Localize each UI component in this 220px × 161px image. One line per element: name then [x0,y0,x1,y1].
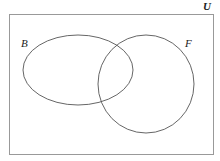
universe-rectangle [10,15,214,155]
universe-label: U [203,0,212,12]
set-f-label: F [184,37,192,49]
set-b-label: B [21,37,28,49]
venn-diagram: U B F [0,0,220,161]
set-f-circle [98,35,194,133]
